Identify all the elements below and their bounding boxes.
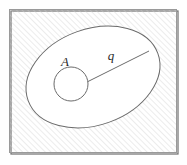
label-q: q <box>108 48 115 63</box>
label-A: A <box>60 54 69 69</box>
figure-container: A q <box>0 0 187 165</box>
inner-hole-circle <box>54 67 88 101</box>
set-diagram-svg: A q <box>0 0 187 165</box>
